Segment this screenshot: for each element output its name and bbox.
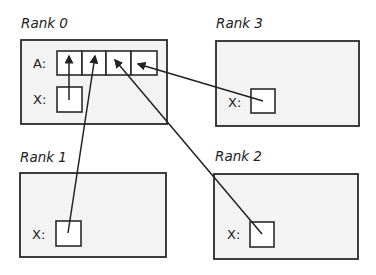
rank1-panel: Rank 1 X: [20,149,166,257]
rank0-panel: Rank 0 A: X: [21,15,167,124]
rank1-x-label: X: [32,227,45,242]
rank2-title: Rank 2 [215,148,262,164]
rank0-array-label: A: [33,56,46,71]
rank1-title: Rank 1 [20,149,67,165]
rank0-title: Rank 0 [21,15,68,31]
rank2-x-cell [250,222,274,247]
rank3-title: Rank 3 [216,15,263,31]
array-cell-3 [131,51,157,75]
gather-diagram: Rank 0 A: X: Rank 3 X: Rank 1 X: Rank 2 … [0,0,376,275]
rank1-box [20,173,166,257]
rank0-x-label: X: [33,92,46,107]
rank2-box [214,174,358,259]
rank3-box [216,41,359,126]
rank3-panel: Rank 3 X: [216,15,359,126]
rank3-x-label: X: [228,95,241,110]
rank2-x-label: X: [227,227,240,242]
